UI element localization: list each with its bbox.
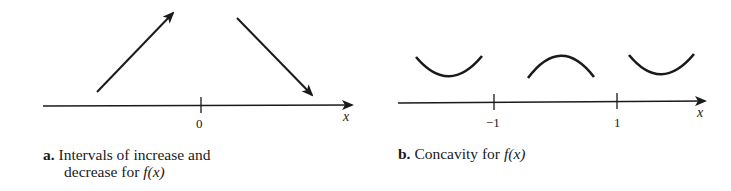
decreasing-arrow-icon bbox=[237, 18, 312, 95]
increasing-arrow-icon bbox=[97, 13, 173, 92]
caption-a: a. Intervals of increase and decrease fo… bbox=[43, 146, 210, 180]
caption-a-line1: Intervals of increase and bbox=[59, 146, 211, 163]
caption-b-text: Concavity for bbox=[414, 145, 504, 162]
tick-label-zero: 0 bbox=[196, 117, 203, 130]
concave-up-left-icon bbox=[416, 56, 482, 76]
tick-label-neg-one: −1 bbox=[486, 116, 500, 129]
panel-a bbox=[43, 13, 352, 113]
concave-up-right-icon bbox=[629, 54, 694, 74]
tick-label-one: 1 bbox=[614, 116, 621, 129]
caption-b: b. Concavity for f(x) bbox=[398, 145, 525, 162]
x-axis-b bbox=[398, 101, 705, 103]
caption-b-letter: b. bbox=[398, 145, 411, 162]
concave-down-icon bbox=[528, 56, 594, 78]
x-axis-a bbox=[43, 105, 352, 106]
caption-a-line2: decrease for bbox=[64, 163, 143, 180]
caption-b-func: f(x) bbox=[504, 145, 526, 162]
x-axis-label-b: x bbox=[697, 106, 703, 120]
panel-b bbox=[398, 54, 705, 110]
caption-a-func: f(x) bbox=[143, 163, 165, 180]
caption-a-letter: a. bbox=[43, 146, 55, 163]
x-axis-label-a: x bbox=[343, 110, 349, 124]
